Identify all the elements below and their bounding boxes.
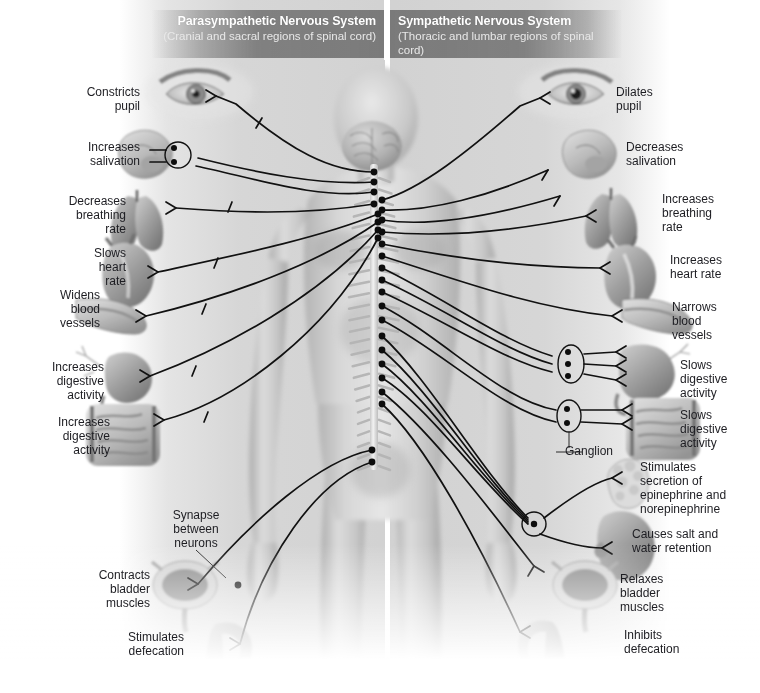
label-synapse-between-neurons: Synapse between neurons bbox=[160, 508, 232, 550]
label-increases-salivation: Increases salivation bbox=[46, 140, 140, 168]
header-parasympathetic-title: Parasympathetic Nervous System bbox=[160, 14, 376, 29]
header-parasympathetic: Parasympathetic Nervous System (Cranial … bbox=[152, 10, 384, 58]
label-narrows-blood-vessels: Narrows blood vessels bbox=[672, 300, 756, 342]
ganglion-intestine bbox=[557, 400, 581, 432]
label-relaxes-bladder: Relaxes bladder muscles bbox=[620, 572, 702, 614]
label-increases-heart-rate: Increases heart rate bbox=[670, 253, 760, 281]
label-contracts-bladder: Contracts bladder muscles bbox=[66, 568, 150, 610]
sympathetic-nerves bbox=[382, 92, 632, 638]
synapse-dot-bladder bbox=[235, 582, 242, 589]
label-ganglion: Ganglion bbox=[556, 444, 622, 458]
label-stimulates-secretion: Stimulates secretion of epinephrine and … bbox=[640, 460, 758, 516]
label-decreases-salivation: Decreases salivation bbox=[626, 140, 722, 168]
header-sympathetic-subtitle: (Thoracic and lumbar regions of spinal c… bbox=[398, 29, 614, 58]
ganglion-salivary-left bbox=[165, 142, 191, 168]
label-increases-breathing: Increases breathing rate bbox=[662, 192, 750, 234]
header-sympathetic: Sympathetic Nervous System (Thoracic and… bbox=[390, 10, 622, 58]
label-decreases-breathing: Decreases breathing rate bbox=[38, 194, 126, 236]
label-slows-digestive-intestine: Slows digestive activity bbox=[680, 408, 760, 450]
label-dilates-pupil: Dilates pupil bbox=[616, 85, 696, 113]
header-parasympathetic-subtitle: (Cranial and sacral regions of spinal co… bbox=[160, 29, 376, 44]
label-stimulates-defecation: Stimulates defecation bbox=[96, 630, 184, 658]
label-constricts-pupil: Constricts pupil bbox=[62, 85, 140, 113]
label-causes-salt-water-retention: Causes salt and water retention bbox=[632, 527, 756, 555]
label-widens-blood-vessels: Widens blood vessels bbox=[18, 288, 100, 330]
annotation-leader-lines bbox=[196, 432, 582, 578]
label-slows-digestive-stomach: Slows digestive activity bbox=[680, 358, 760, 400]
label-slows-heart-rate: Slows heart rate bbox=[54, 246, 126, 288]
label-increases-digestive-intestine: Increases digestive activity bbox=[24, 415, 110, 457]
parasympathetic-nerves bbox=[136, 90, 378, 650]
leader-synapse-label bbox=[196, 550, 226, 578]
label-increases-digestive-stomach: Increases digestive activity bbox=[18, 360, 104, 402]
header-sympathetic-title: Sympathetic Nervous System bbox=[398, 14, 614, 29]
label-inhibits-defecation: Inhibits defecation bbox=[624, 628, 710, 656]
nerve-origin-dots bbox=[369, 169, 386, 466]
autonomic-nervous-system-figure: Parasympathetic Nervous System (Cranial … bbox=[0, 0, 760, 693]
